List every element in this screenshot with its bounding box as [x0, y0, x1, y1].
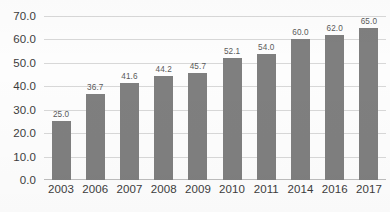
bar: [120, 83, 139, 180]
x-axis-tick-label: 2014: [283, 183, 317, 195]
y-axis-tick-label: 50.0: [13, 57, 36, 69]
x-axis-tick-label: 2017: [352, 183, 386, 195]
bar: [359, 28, 378, 180]
bar: [291, 39, 310, 180]
bar-value-label: 36.7: [78, 83, 112, 92]
bar-value-label: 65.0: [352, 17, 386, 26]
bar-slot: 25.0: [44, 16, 78, 180]
bar-value-label: 25.0: [44, 110, 78, 119]
bar-chart: 0.010.020.030.040.050.060.070.0 25.036.7…: [0, 0, 390, 212]
y-axis-tick-label: 40.0: [13, 80, 36, 92]
x-axis-tick-label: 2008: [147, 183, 181, 195]
bar-value-label: 54.0: [249, 43, 283, 52]
bar-value-label: 60.0: [283, 28, 317, 37]
y-axis-tick-label: 20.0: [13, 127, 36, 139]
x-axis-tick-label: 2011: [249, 183, 283, 195]
bar: [154, 76, 173, 180]
bar-slot: 52.1: [215, 16, 249, 180]
x-axis-tick-label: 2016: [318, 183, 352, 195]
bar-slot: 62.0: [318, 16, 352, 180]
bar-value-label: 41.6: [112, 72, 146, 81]
bar: [52, 121, 71, 180]
y-axis-tick-label: 30.0: [13, 104, 36, 116]
y-axis-tick-label: 10.0: [13, 151, 36, 163]
x-axis-tick-label: 2003: [44, 183, 78, 195]
bar: [325, 35, 344, 180]
bar-slot: 54.0: [249, 16, 283, 180]
bar: [188, 73, 207, 180]
bar-slot: 45.7: [181, 16, 215, 180]
bar-value-label: 45.7: [181, 62, 215, 71]
bar: [223, 58, 242, 180]
y-axis-tick-labels: 0.010.020.030.040.050.060.070.0: [0, 16, 40, 180]
bar-slot: 60.0: [283, 16, 317, 180]
x-axis-tick-labels: 2003200620072008200920102011201420162017: [44, 183, 386, 205]
bar-value-label: 44.2: [147, 65, 181, 74]
bar-slot: 44.2: [147, 16, 181, 180]
bar-slot: 41.6: [112, 16, 146, 180]
x-axis-tick-label: 2009: [181, 183, 215, 195]
bar: [86, 94, 105, 180]
x-axis-tick-label: 2006: [78, 183, 112, 195]
bars-layer: 25.036.741.644.245.752.154.060.062.065.0: [44, 16, 386, 180]
bar-slot: 36.7: [78, 16, 112, 180]
y-axis-tick-label: 60.0: [13, 33, 36, 45]
y-axis-tick-label: 70.0: [13, 10, 36, 22]
bar-slot: 65.0: [352, 16, 386, 180]
y-axis-tick-label: 0.0: [20, 174, 36, 186]
bar: [257, 54, 276, 181]
bar-value-label: 52.1: [215, 47, 249, 56]
x-axis-tick-label: 2010: [215, 183, 249, 195]
x-axis-tick-label: 2007: [112, 183, 146, 195]
bar-value-label: 62.0: [318, 24, 352, 33]
